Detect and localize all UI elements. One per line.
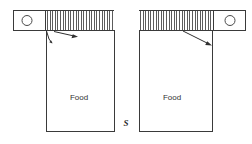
left-feeder-body	[46, 11, 114, 31]
right-hopper-label: Food	[163, 93, 181, 102]
left-hopper-label: Food	[70, 93, 88, 102]
engineering-diagram: Food Food S	[0, 0, 252, 144]
diagram-canvas: Food Food S	[0, 0, 252, 144]
right-roller-assembly	[214, 11, 246, 31]
left-roller-assembly	[14, 11, 46, 31]
left-hopper-fill	[46, 31, 114, 132]
left-roller-box	[14, 11, 46, 31]
right-hopper-fill	[139, 31, 213, 132]
left-hopper: Food	[46, 31, 115, 133]
left-feeder-hatched-region	[46, 11, 114, 31]
right-hopper: Food	[139, 31, 213, 133]
center-gap-annotation: S	[123, 118, 128, 128]
right-feeder-hatched-region	[139, 11, 214, 31]
right-roller-box	[214, 11, 246, 31]
right-feeder-body	[139, 11, 213, 31]
gap-label: S	[123, 118, 128, 128]
